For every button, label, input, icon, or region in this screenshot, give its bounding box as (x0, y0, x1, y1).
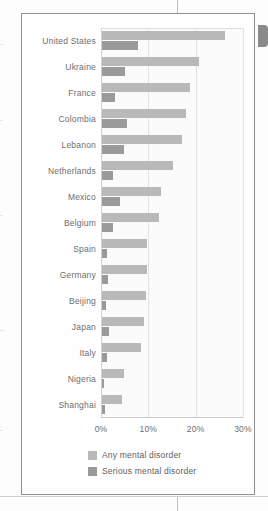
category-label: Nigeria (24, 374, 96, 384)
plot-area (101, 28, 243, 418)
bar-any (102, 343, 141, 352)
gridline-30 (243, 28, 244, 418)
bar-serious (102, 301, 106, 310)
bar-serious (102, 327, 109, 336)
bar-any (102, 187, 161, 196)
bar-any (102, 135, 182, 144)
tick-label-0: 0% (95, 424, 108, 434)
bar-group (101, 236, 243, 262)
bar-any (102, 57, 199, 66)
bar-serious (102, 67, 125, 76)
bar-any (102, 317, 144, 326)
bar-serious (102, 275, 108, 284)
bar-any (102, 83, 190, 92)
bar-serious (102, 145, 124, 154)
category-label: Germany (24, 270, 96, 280)
category-label: Italy (24, 348, 96, 358)
category-label: Japan (24, 322, 96, 332)
category-label: Mexico (24, 192, 96, 202)
category-label: France (24, 88, 96, 98)
bar-serious (102, 223, 113, 232)
legend-swatch-any (88, 451, 97, 460)
bar-serious (102, 405, 105, 414)
bar-group (101, 80, 243, 106)
category-label: Ukraine (24, 62, 96, 72)
category-label: Spain (24, 244, 96, 254)
bar-group (101, 184, 243, 210)
bar-any (102, 109, 186, 118)
bar-serious (102, 379, 104, 388)
bar-any (102, 369, 124, 378)
bar-group (101, 392, 243, 418)
bar-group (101, 158, 243, 184)
bar-serious (102, 93, 115, 102)
category-label: Lebanon (24, 140, 96, 150)
bar-group (101, 262, 243, 288)
bar-group (101, 288, 243, 314)
bar-group (101, 28, 243, 54)
bar-group (101, 54, 243, 80)
bar-group (101, 366, 243, 392)
bar-group (101, 340, 243, 366)
legend-swatch-serious (88, 467, 97, 476)
bar-serious (102, 119, 127, 128)
bar-group (101, 210, 243, 236)
chart-legend: Any mental disorderSerious mental disord… (88, 448, 228, 480)
bar-group (101, 106, 243, 132)
tick-label-20: 20% (187, 424, 205, 434)
bar-any (102, 213, 159, 222)
legend-label-serious: Serious mental disorder (102, 466, 196, 476)
category-label: United States (24, 36, 96, 46)
bar-any (102, 395, 122, 404)
plot-bottom-rule (101, 417, 243, 418)
bar-serious (102, 171, 113, 180)
category-label: Beijing (24, 296, 96, 306)
legend-item-serious: Serious mental disorder (88, 464, 228, 478)
bar-chart: United StatesUkraineFranceColombiaLebano… (0, 0, 268, 511)
bar-group (101, 132, 243, 158)
bar-any (102, 291, 146, 300)
bar-serious (102, 249, 107, 258)
bar-serious (102, 41, 138, 50)
bar-any (102, 239, 147, 248)
category-label: Colombia (24, 114, 96, 124)
bar-any (102, 31, 225, 40)
bar-serious (102, 353, 107, 362)
legend-label-any: Any mental disorder (102, 450, 181, 460)
bar-any (102, 161, 173, 170)
bar-any (102, 265, 147, 274)
legend-item-any: Any mental disorder (88, 448, 228, 462)
tick-label-10: 10% (140, 424, 158, 434)
bar-serious (102, 197, 120, 206)
category-label: Netherlands (24, 166, 96, 176)
bar-group (101, 314, 243, 340)
tick-label-30: 30% (234, 424, 252, 434)
category-label: Belgium (24, 218, 96, 228)
category-label: Shanghai (24, 400, 96, 410)
